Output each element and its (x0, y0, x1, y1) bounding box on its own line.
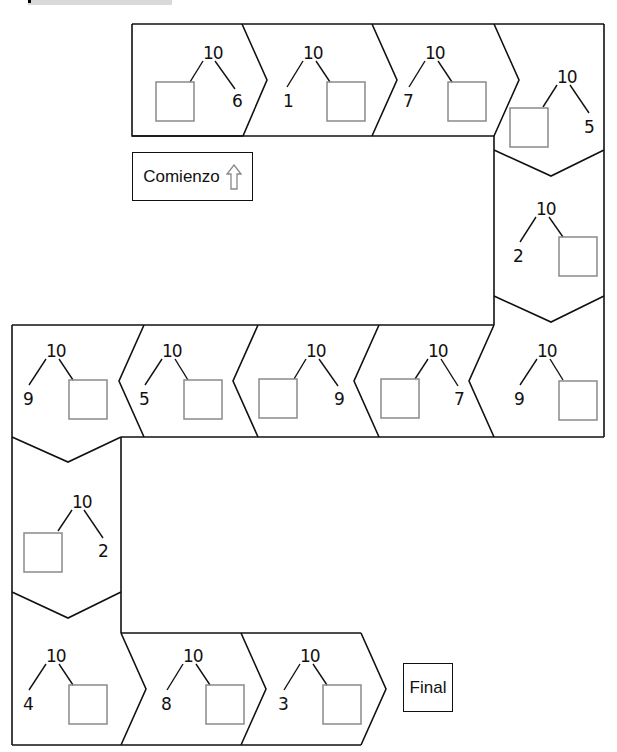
space-3: 10 7 (403, 43, 486, 121)
svg-text:10: 10 (557, 67, 577, 87)
answer-box[interactable] (69, 380, 107, 419)
svg-text:9: 9 (334, 389, 345, 409)
answer-box[interactable] (510, 108, 548, 147)
space-2: 10 1 (283, 43, 365, 121)
space-6: 10 9 (23, 341, 107, 419)
svg-text:2: 2 (513, 246, 524, 266)
board-outline (132, 24, 243, 136)
svg-text:10: 10 (183, 646, 203, 666)
svg-text:10: 10 (162, 341, 182, 361)
svg-text:10: 10 (46, 341, 66, 361)
svg-text:1: 1 (283, 91, 294, 111)
svg-text:9: 9 (23, 389, 34, 409)
svg-text:5: 5 (139, 389, 150, 409)
svg-text:10: 10 (203, 43, 223, 63)
answer-box[interactable] (259, 379, 297, 418)
up-arrow-icon (226, 164, 242, 190)
answer-box[interactable] (24, 533, 62, 572)
svg-text:10: 10 (72, 492, 92, 512)
space-11: 10 2 (24, 492, 109, 572)
svg-text:8: 8 (161, 694, 172, 714)
svg-text:7: 7 (454, 389, 465, 409)
game-board: 10 6 10 1 10 7 10 5 10 2 10 9 (0, 0, 617, 752)
svg-text:7: 7 (403, 91, 414, 111)
svg-text:10: 10 (537, 341, 557, 361)
space-10: 10 9 (514, 341, 597, 420)
space-13: 10 8 (161, 646, 244, 724)
answer-box[interactable] (559, 381, 597, 420)
space-9: 10 7 (381, 341, 465, 418)
answer-box[interactable] (381, 379, 419, 418)
svg-text:3: 3 (278, 694, 289, 714)
answer-box[interactable] (69, 685, 107, 724)
svg-text:2: 2 (98, 541, 109, 561)
svg-text:5: 5 (584, 117, 595, 137)
space-14: 10 3 (278, 646, 361, 724)
space-8: 10 9 (259, 341, 345, 418)
answer-box[interactable] (448, 82, 486, 121)
svg-text:10: 10 (46, 646, 66, 666)
start-label-box: Comienzo (132, 152, 253, 201)
svg-text:10: 10 (536, 199, 556, 219)
svg-text:9: 9 (514, 389, 525, 409)
finish-label: Final (410, 678, 447, 698)
space-7: 10 5 (139, 341, 222, 419)
svg-text:6: 6 (232, 91, 243, 111)
svg-text:10: 10 (306, 341, 326, 361)
svg-text:10: 10 (425, 43, 445, 63)
svg-text:10: 10 (428, 341, 448, 361)
finish-label-box: Final (403, 663, 453, 712)
space-4: 10 5 (510, 67, 595, 147)
answer-box[interactable] (206, 685, 244, 724)
answer-box[interactable] (559, 237, 597, 276)
svg-text:10: 10 (303, 43, 323, 63)
answer-box[interactable] (327, 82, 365, 121)
answer-box[interactable] (323, 685, 361, 724)
svg-text:10: 10 (300, 646, 320, 666)
start-label: Comienzo (143, 167, 220, 187)
space-1: 10 6 (156, 43, 243, 121)
answer-box[interactable] (156, 82, 194, 121)
space-5: 10 2 (513, 199, 597, 276)
svg-text:4: 4 (23, 694, 34, 714)
answer-box[interactable] (184, 380, 222, 419)
space-12: 10 4 (23, 646, 107, 724)
